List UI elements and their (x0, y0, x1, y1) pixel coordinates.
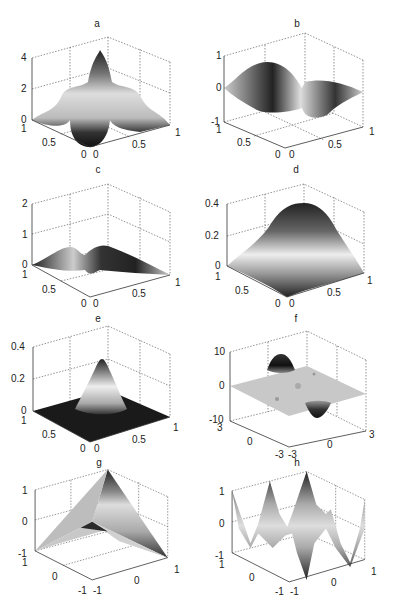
x-tick: 1 (175, 128, 181, 138)
z-tick: 4 (21, 53, 27, 63)
z-tick: 1 (219, 487, 225, 497)
plot-c-title: c (88, 164, 108, 175)
plot-c: c 2 1 0 1 0.5 0 0 0.5 1 (0, 152, 197, 304)
z-tick: 0.4 (11, 342, 25, 352)
x-tick: 0.5 (327, 288, 341, 298)
z-tick: 1 (216, 51, 222, 61)
z-tick: 0.2 (205, 231, 219, 241)
plot-g: g 1 0 -1 1 0 -1 -1 0 1 (0, 456, 197, 608)
y-tick: 0.5 (42, 138, 56, 148)
z-tick: 1 (22, 230, 28, 240)
x-tick: 1 (174, 565, 180, 575)
y-tick: 1 (219, 560, 225, 570)
y-tick: 0.5 (235, 286, 249, 296)
z-tick: 2 (21, 84, 27, 94)
z-tick: 1 (22, 486, 28, 496)
y-tick: 0 (247, 437, 253, 447)
x-tick: -1 (93, 586, 102, 596)
x-tick: 0.5 (328, 140, 342, 150)
y-tick: 3 (217, 423, 223, 433)
plot-e-surface (0, 304, 197, 456)
plot-f-surface (197, 304, 394, 456)
plot-e: e 0.4 0.2 0 1 0.5 0 0 0.5 1 (0, 304, 197, 456)
x-tick: 1 (175, 278, 181, 288)
plot-a-title: a (87, 18, 107, 29)
plot-f-title: f (286, 313, 306, 324)
x-tick: 0 (331, 578, 337, 588)
x-tick: 0 (134, 576, 140, 586)
plot-g-title: g (89, 457, 109, 468)
plot-f: f 10 0 -10 3 0 -3 -3 0 3 (197, 304, 394, 456)
x-tick: 0 (94, 444, 100, 454)
z-tick: 0 (216, 83, 222, 93)
plot-b: b 1 0 -1 1 0.5 0 0 0.5 1 (197, 0, 394, 152)
z-tick: 0 (215, 261, 221, 271)
z-tick: 2 (22, 199, 28, 209)
plot-h: h 1 0 -1 1 0 -1 -1 0 1 (197, 456, 394, 608)
y-tick: 0.5 (42, 285, 56, 295)
y-tick: 1 (215, 272, 221, 282)
z-tick: 10 (214, 347, 225, 357)
plot-e-title: e (88, 313, 108, 324)
x-tick: 0 (327, 440, 333, 450)
plot-a: a 4 2 0 1 0.5 0 0 0.5 1 (0, 0, 197, 152)
plot-d-title: d (286, 164, 306, 175)
x-tick: 1 (367, 276, 373, 286)
z-tick: 0.4 (205, 199, 219, 209)
plot-h-title: h (287, 457, 307, 468)
y-tick: -1 (78, 586, 87, 596)
y-tick: 1 (22, 270, 28, 280)
z-tick: 0 (219, 381, 225, 391)
x-tick: 1 (371, 567, 377, 577)
x-tick: 0.5 (132, 289, 146, 299)
plot-d: d 0.4 0.2 0 1 0.5 0 0 0.5 1 (197, 152, 394, 304)
x-tick: 3 (369, 430, 375, 440)
y-tick: 0 (249, 573, 255, 583)
y-tick: 0 (80, 444, 86, 454)
y-tick: 1 (21, 124, 27, 134)
plot-b-title: b (287, 18, 307, 29)
x-tick: 1 (173, 423, 179, 433)
y-tick: 0.5 (237, 138, 251, 148)
z-tick: 0.2 (11, 374, 25, 384)
y-tick: 1 (22, 558, 28, 568)
y-tick: -1 (275, 587, 284, 597)
y-tick: 1 (216, 125, 222, 135)
x-tick: 0.5 (132, 435, 146, 445)
z-tick: 0 (219, 519, 225, 529)
x-tick: 1 (369, 127, 375, 137)
x-tick: -1 (290, 587, 299, 597)
z-tick: 0 (22, 517, 28, 527)
x-tick: 0.5 (132, 140, 146, 150)
y-tick: 1 (21, 416, 27, 426)
y-tick: 0 (52, 572, 58, 582)
y-tick: 0.5 (42, 430, 56, 440)
